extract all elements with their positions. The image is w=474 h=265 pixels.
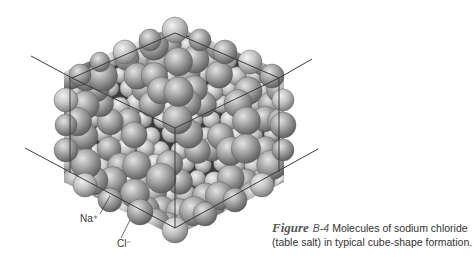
caption-line-1: Molecules of sodium chloride [332,222,467,234]
chloride-ion-label: Cl⁻ [117,238,131,249]
edge-ion-sphere [260,64,284,88]
sodium-ion-sphere [272,20,289,37]
sodium-ion-sphere [237,19,257,39]
edge-ion-sphere [213,40,237,64]
chloride-ion-sphere [252,17,278,43]
sodium-ion-sphere [92,35,111,54]
chloride-ion-sphere [45,15,72,42]
chloride-ion-sphere [146,163,176,193]
sodium-ion-sphere [274,202,290,218]
sodium-ion-sphere [109,214,129,234]
figure-word: Figure [272,220,309,235]
edge-ion-sphere [127,199,153,225]
edge-ion-sphere [270,112,296,138]
chloride-pointer [121,220,130,238]
sodium-ion-sphere [255,201,273,219]
chloride-ion-sphere [164,77,194,107]
chloride-ion-sphere [275,180,302,207]
figure-number: B-4 [313,222,329,234]
sodium-ion-sphere [265,38,282,55]
chloride-ion-sphere [206,61,233,88]
chloride-ion-sphere [164,48,192,76]
sodium-ion-sphere [245,215,263,233]
sodium-ion-sphere [60,216,78,234]
figure-caption: FigureB-4Molecules of sodium chloride (t… [272,221,474,249]
edge-ion-sphere [55,114,77,136]
chloride-ion-sphere [121,122,147,148]
axis-line-right-top [279,59,312,78]
chloride-ion-sphere [163,105,193,135]
chloride-ion-sphere [80,18,106,44]
chloride-ion-sphere [99,17,123,41]
edge-ion-sphere [193,202,217,226]
chloride-ion-sphere [231,134,260,163]
chloride-ion-sphere [273,32,302,61]
sodium-ion-sphere [52,202,69,219]
chloride-ion-sphere [232,107,260,135]
sodium-ion-sphere [66,23,84,41]
sodium-ion-label: Na⁺ [80,213,98,224]
edge-ion-sphere [162,17,188,43]
ion-lattice [45,15,303,243]
edge-ion-sphere [54,138,78,162]
edge-ion-sphere [113,40,137,64]
edge-ion-sphere [272,89,294,111]
edge-ion-sphere [54,88,78,112]
chloride-ion-sphere [116,17,141,42]
sodium-ion-sphere [220,23,237,40]
sodium-ion-sphere [60,37,78,55]
chloride-ion-sphere [225,208,254,237]
axis-line-left-top [31,56,72,78]
sodium-ion-sphere [50,50,66,66]
caption-line-2: (table salt) in typical cube-shape forma… [272,236,472,248]
edge-ion-sphere [272,139,294,161]
edge-ion-sphere [98,188,122,212]
